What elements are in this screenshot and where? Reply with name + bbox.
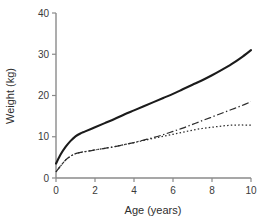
x-tick-label: 4: [131, 185, 137, 196]
y-tick-label: 40: [38, 8, 50, 19]
series-line-dash-dot-curve: [56, 102, 251, 172]
x-axis-title: Age (years): [125, 204, 182, 216]
x-tick-label: 10: [245, 185, 257, 196]
x-tick-label: 0: [53, 185, 59, 196]
series-layer: [56, 50, 251, 172]
y-tick-label: 10: [38, 131, 50, 142]
chart-canvas: 010203040 0246810 Age (years) Weight (kg…: [0, 0, 266, 222]
x-tick-label: 6: [170, 185, 176, 196]
y-tick-label: 0: [43, 173, 49, 184]
y-axis-title: Weight (kg): [4, 68, 16, 124]
x-tick-label: 2: [92, 185, 98, 196]
y-axis-tick-labels: 010203040: [38, 8, 50, 184]
y-axis: 010203040: [38, 8, 56, 184]
x-tick-label: 8: [209, 185, 215, 196]
x-axis-tick-labels: 0246810: [53, 185, 257, 196]
y-tick-label: 20: [38, 90, 50, 101]
weight-for-age-chart: 010203040 0246810 Age (years) Weight (kg…: [0, 0, 266, 222]
y-tick-label: 30: [38, 49, 50, 60]
series-line-solid-curve: [56, 50, 251, 163]
x-axis: 0246810: [53, 178, 257, 196]
